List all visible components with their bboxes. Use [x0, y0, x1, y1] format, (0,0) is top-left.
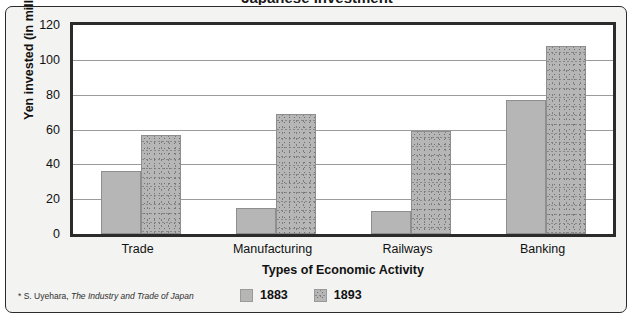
legend-swatch-1883: [240, 289, 253, 302]
bar-manufacturing-1893: [276, 114, 316, 234]
y-tick-100: 100: [14, 54, 60, 66]
y-tick-40: 40: [14, 158, 60, 170]
legend-entry-1883: 1883: [240, 288, 288, 302]
source-footnote: * S. Uyehara, The Industry and Trade of …: [18, 291, 194, 301]
legend-swatch-1893: [314, 289, 327, 302]
bar-trade-1883: [101, 171, 141, 234]
x-tick-banking: Banking: [475, 242, 610, 256]
chart-legend: 18831893: [240, 286, 362, 304]
bar-group-railways: [343, 25, 478, 234]
legend-entry-1893: 1893: [314, 288, 362, 302]
x-tick-railways: Railways: [340, 242, 475, 256]
bar-manufacturing-1883: [236, 208, 276, 234]
cutoff-chart-title: Japanese Investment: [0, 0, 634, 5]
y-tick-0: 0: [14, 228, 60, 240]
y-tick-80: 80: [14, 89, 60, 101]
plot-area: [73, 25, 613, 234]
chart-figure: Japanese Investment Yen invested (in mil…: [0, 0, 634, 323]
x-axis-tick-labels: TradeManufacturingRailwaysBanking: [70, 242, 616, 260]
footnote-source-title: The Industry and Trade of Japan: [71, 291, 194, 301]
y-tick-60: 60: [14, 124, 60, 136]
y-tick-120: 120: [14, 19, 60, 31]
bar-railways-1893: [411, 131, 451, 234]
bar-banking-1893: [546, 46, 586, 234]
bar-banking-1883: [506, 100, 546, 234]
y-tick-20: 20: [14, 193, 60, 205]
bar-group-manufacturing: [208, 25, 343, 234]
x-tick-manufacturing: Manufacturing: [205, 242, 340, 256]
plot-frame: [70, 22, 616, 237]
bar-group-banking: [478, 25, 613, 234]
bar-group-trade: [73, 25, 208, 234]
footnote-marker: *: [18, 291, 21, 301]
bar-railways-1883: [371, 211, 411, 234]
bar-trade-1893: [141, 135, 181, 234]
x-axis-title: Types of Economic Activity: [70, 263, 616, 277]
legend-label-1893: 1893: [334, 288, 362, 302]
x-tick-trade: Trade: [70, 242, 205, 256]
y-axis-tick-labels: 020406080100120: [14, 22, 66, 231]
legend-label-1883: 1883: [260, 288, 288, 302]
footnote-author: S. Uyehara,: [24, 291, 69, 301]
